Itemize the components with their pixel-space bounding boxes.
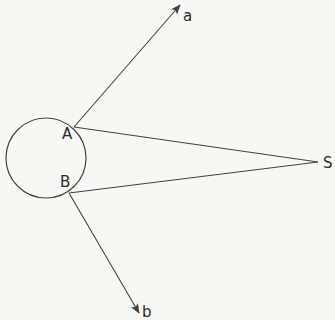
arrow-a xyxy=(74,5,180,127)
diagram-svg: a b A B S xyxy=(0,0,335,320)
arrow-b xyxy=(69,193,139,313)
sphere-circle xyxy=(6,118,86,198)
label-b: b xyxy=(142,303,152,320)
label-point-A: A xyxy=(62,125,73,143)
line-b-to-s xyxy=(69,162,318,193)
line-a-to-s xyxy=(74,127,318,162)
label-point-B: B xyxy=(60,173,70,191)
label-point-S: S xyxy=(323,154,333,172)
diagram-canvas: a b A B S xyxy=(0,0,335,320)
label-a: a xyxy=(183,7,192,25)
